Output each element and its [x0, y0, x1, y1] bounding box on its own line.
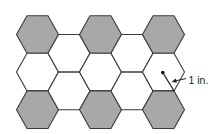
honeycomb-diagram: 1 in.	[0, 0, 218, 134]
center-dot	[161, 71, 165, 75]
hexagon-grid	[17, 16, 185, 129]
measurement-label: 1 in.	[189, 74, 209, 86]
